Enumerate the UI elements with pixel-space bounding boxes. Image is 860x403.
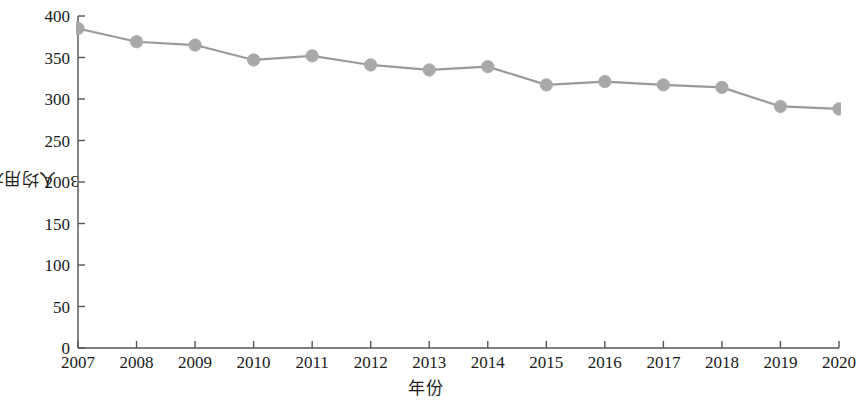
- x-axis-tick-label: 2007: [48, 354, 108, 371]
- y-axis-tick-label: 100: [26, 257, 70, 274]
- data-point-marker: [540, 79, 552, 91]
- plot-area: [76, 14, 841, 352]
- y-axis-tick-label: 350: [26, 49, 70, 66]
- x-axis-tick-label: 2019: [750, 354, 810, 371]
- x-axis-tick-label: 2008: [107, 354, 167, 371]
- y-axis-tick-label: 250: [26, 132, 70, 149]
- data-point-marker: [599, 75, 611, 87]
- y-axis-tick-label: 50: [26, 298, 70, 315]
- x-axis-tick-labels: 2007200820092010201120122013201420152016…: [76, 352, 841, 376]
- axis-lines: [78, 16, 839, 348]
- axis-ticks: [78, 16, 839, 348]
- data-point-marker: [189, 39, 201, 51]
- x-axis-tick-label: 2016: [575, 354, 635, 371]
- x-axis-tick-label: 2011: [282, 354, 342, 371]
- data-point-marker: [130, 36, 142, 48]
- y-axis-tick-label: 150: [26, 215, 70, 232]
- x-axis-title: 年份: [0, 374, 851, 399]
- data-point-marker: [774, 100, 786, 112]
- x-axis-tick-label: 2009: [165, 354, 225, 371]
- x-axis-tick-label: 2012: [341, 354, 401, 371]
- data-point-marker: [76, 22, 84, 34]
- data-point-marker: [247, 54, 259, 66]
- x-axis-tick-label: 2015: [516, 354, 576, 371]
- data-point-marker: [716, 81, 728, 93]
- data-point-marker: [833, 103, 841, 115]
- x-axis-tick-label: 2017: [633, 354, 693, 371]
- data-point-marker: [423, 64, 435, 76]
- y-axis-tick-labels: 050100150200250300350400: [22, 14, 70, 352]
- x-axis-tick-label: 2010: [224, 354, 284, 371]
- x-axis-tick-label: 2013: [399, 354, 459, 371]
- y-axis-tick-label: 200: [26, 174, 70, 191]
- data-point-marker: [482, 60, 494, 72]
- y-axis-tick-label: 300: [26, 91, 70, 108]
- data-point-marker: [657, 79, 669, 91]
- x-axis-tick-label: 2014: [458, 354, 518, 371]
- y-axis-tick-label: 400: [26, 8, 70, 25]
- x-axis-tick-label: 2018: [692, 354, 752, 371]
- data-point-marker: [364, 59, 376, 71]
- data-point-marker: [306, 50, 318, 62]
- x-axis-tick-label: 2020: [809, 354, 860, 371]
